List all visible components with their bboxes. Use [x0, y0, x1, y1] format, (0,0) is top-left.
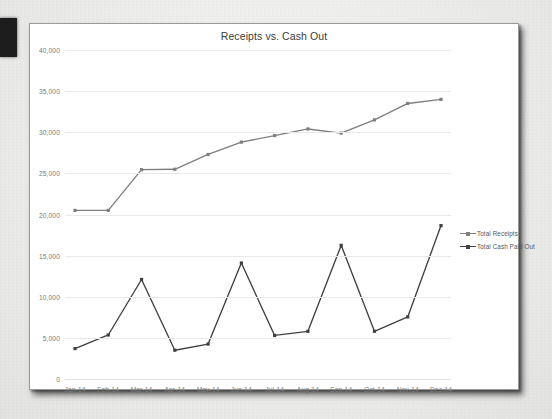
data-point-marker [439, 98, 442, 101]
x-axis-tick-label: Nov-14 [397, 386, 419, 393]
y-axis-tick-label: 40,000 [39, 47, 60, 54]
x-axis-tick-label: Feb-14 [97, 386, 119, 393]
data-point-marker [73, 209, 76, 212]
legend-marker-icon [460, 230, 476, 237]
plot-inner: 40,00035,00030,00025,00020,00015,00010,0… [65, 50, 451, 379]
gridline [65, 132, 451, 133]
data-point-marker [173, 349, 176, 352]
y-axis-tick-label: 5,000 [43, 334, 60, 341]
data-point-marker [306, 330, 309, 333]
plot-area: 40,00035,00030,00025,00020,00015,00010,0… [65, 50, 451, 379]
y-axis-tick-label: 20,000 [39, 211, 60, 218]
gridline [65, 379, 451, 380]
data-point-marker [373, 118, 376, 121]
gridline [65, 297, 451, 298]
data-point-marker [206, 153, 209, 156]
data-point-marker [240, 141, 243, 144]
data-point-marker [107, 209, 110, 212]
x-axis-tick-label: Aug-14 [297, 386, 319, 393]
gridline [65, 215, 451, 216]
x-axis-tick-label: Jun-14 [231, 386, 252, 393]
x-axis-tick-label: Jul-14 [265, 386, 284, 393]
data-point-marker [406, 102, 409, 105]
data-point-marker [273, 134, 276, 137]
data-point-marker [406, 315, 409, 318]
x-axis-tick-label: May-14 [197, 386, 220, 393]
x-axis-tick-label: Dec-14 [430, 386, 452, 393]
chart-title: Receipts vs. Cash Out [30, 30, 518, 42]
data-point-marker [439, 224, 442, 227]
data-point-marker [306, 127, 309, 130]
y-axis-tick-label: 10,000 [39, 293, 60, 300]
y-axis-tick-label: 25,000 [39, 170, 60, 177]
data-point-marker [173, 168, 176, 171]
gridline [65, 173, 451, 174]
gridline [65, 256, 451, 257]
y-axis-tick-label: 15,000 [39, 252, 60, 259]
legend-item[interactable]: Total Cash Paid Out [460, 240, 520, 253]
data-point-marker [140, 168, 143, 171]
data-point-marker [140, 278, 143, 281]
x-axis-tick-label: Jan-14 [64, 386, 85, 393]
chart-legend: Total ReceiptsTotal Cash Paid Out [460, 227, 520, 253]
series-line [75, 99, 441, 210]
data-point-marker [273, 334, 276, 337]
chart-card: Receipts vs. Cash Out 40,00035,00030,000… [29, 23, 519, 390]
page-edge-marker [0, 18, 17, 57]
legend-item-label: Total Cash Paid Out [477, 243, 535, 250]
gridline [65, 50, 451, 51]
gridline [65, 91, 451, 92]
legend-marker-icon [460, 243, 476, 250]
y-axis-tick-label: 30,000 [39, 129, 60, 136]
data-point-marker [73, 347, 76, 350]
series-line [75, 226, 441, 351]
data-point-marker [240, 261, 243, 264]
x-axis-tick-label: Apr-14 [164, 386, 185, 393]
gridline [65, 338, 451, 339]
legend-item[interactable]: Total Receipts [460, 227, 520, 240]
data-point-marker [107, 333, 110, 336]
x-axis-tick-label: Mar-14 [131, 386, 153, 393]
x-axis-tick-label: Sep-14 [330, 386, 352, 393]
data-point-marker [206, 342, 209, 345]
data-point-marker [340, 244, 343, 247]
legend-item-label: Total Receipts [477, 230, 518, 237]
y-axis-tick-label: 0 [56, 376, 60, 383]
x-axis-tick-label: Oct-14 [364, 386, 385, 393]
data-point-marker [373, 330, 376, 333]
y-axis-tick-label: 35,000 [39, 88, 60, 95]
